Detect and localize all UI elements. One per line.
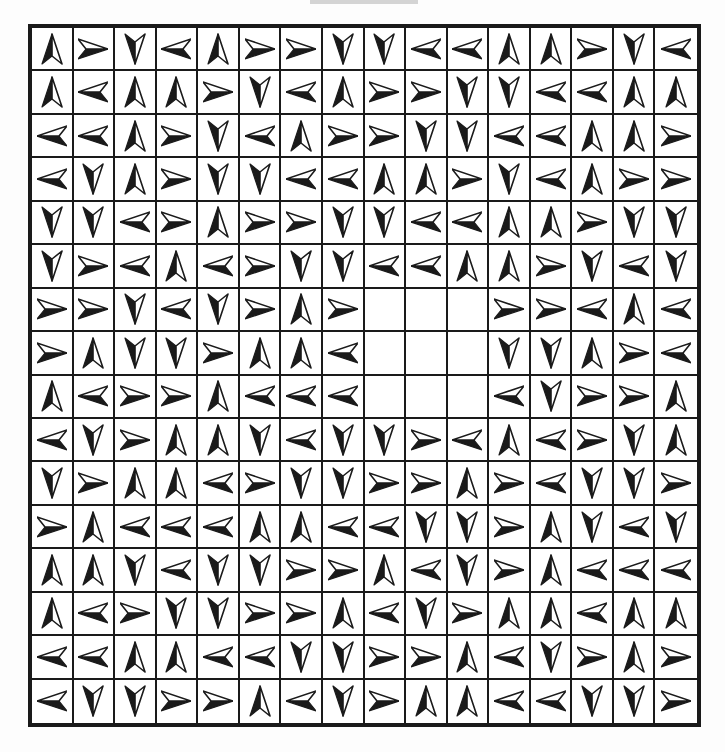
down-arrow-icon [203, 596, 233, 630]
grid-cell-r10-c5 [198, 419, 240, 462]
grid-cell-r8-c10 [406, 332, 448, 375]
right-arrow-icon [37, 292, 67, 326]
grid-cell-r4-c2 [74, 158, 116, 201]
right-arrow-icon [161, 205, 191, 239]
grid-cell-r3-c16 [655, 115, 697, 158]
grid-cell-r12-c14 [572, 506, 614, 549]
grid-cell-r10-c7 [281, 419, 323, 462]
left-arrow-icon [369, 596, 399, 630]
grid-cell-r13-c15 [614, 549, 656, 592]
down-arrow-icon [328, 205, 358, 239]
grid-cell-r1-c10 [406, 28, 448, 71]
grid-cell-r2-c1 [32, 71, 74, 114]
left-arrow-icon [369, 249, 399, 283]
left-arrow-icon [286, 684, 316, 718]
down-arrow-icon [577, 249, 607, 283]
grid-cell-r5-c3 [115, 202, 157, 245]
grid-cell-r2-c16 [655, 71, 697, 114]
up-arrow-icon [78, 336, 108, 370]
grid-cell-r11-c13 [531, 462, 573, 505]
up-arrow-icon [661, 75, 691, 109]
grid-cell-r2-c10 [406, 71, 448, 114]
grid-cell-r11-c3 [115, 462, 157, 505]
up-arrow-icon [369, 162, 399, 196]
up-arrow-icon [619, 292, 649, 326]
left-arrow-icon [203, 249, 233, 283]
right-arrow-icon [619, 379, 649, 413]
right-arrow-icon [78, 466, 108, 500]
grid-cell-r7-c9 [365, 289, 407, 332]
grid-cell-r6-c15 [614, 245, 656, 288]
grid-cell-r12-c3 [115, 506, 157, 549]
left-arrow-icon [411, 249, 441, 283]
grid-cell-r1-c14 [572, 28, 614, 71]
grid-cell-r1-c6 [240, 28, 282, 71]
grid-cell-r14-c12 [489, 593, 531, 636]
left-arrow-icon [161, 32, 191, 66]
grid-cell-r7-c1 [32, 289, 74, 332]
down-arrow-icon [452, 75, 482, 109]
right-arrow-icon [452, 162, 482, 196]
right-arrow-icon [536, 292, 566, 326]
grid-cell-r6-c11 [448, 245, 490, 288]
down-arrow-icon [369, 423, 399, 457]
right-arrow-icon [411, 75, 441, 109]
up-arrow-icon [536, 596, 566, 630]
up-arrow-icon [286, 510, 316, 544]
right-arrow-icon [245, 292, 275, 326]
grid-cell-r16-c8 [323, 680, 365, 723]
grid-cell-r10-c1 [32, 419, 74, 462]
grid-cell-r10-c9 [365, 419, 407, 462]
grid-cell-r1-c7 [281, 28, 323, 71]
down-arrow-icon [203, 162, 233, 196]
grid-cell-r13-c4 [157, 549, 199, 592]
up-arrow-icon [245, 684, 275, 718]
up-arrow-icon [161, 249, 191, 283]
left-arrow-icon [286, 379, 316, 413]
grid-cell-r9-c9 [365, 376, 407, 419]
grid-cell-r11-c10 [406, 462, 448, 505]
down-arrow-icon [452, 510, 482, 544]
right-arrow-icon [245, 596, 275, 630]
right-arrow-icon [286, 32, 316, 66]
grid-cell-r8-c2 [74, 332, 116, 375]
grid-cell-r16-c9 [365, 680, 407, 723]
left-arrow-icon [411, 32, 441, 66]
grid-cell-r1-c3 [115, 28, 157, 71]
down-arrow-icon [328, 466, 358, 500]
grid-cell-r12-c8 [323, 506, 365, 549]
right-arrow-icon [369, 684, 399, 718]
up-arrow-icon [203, 423, 233, 457]
grid-cell-r1-c1 [32, 28, 74, 71]
grid-cell-r14-c10 [406, 593, 448, 636]
left-arrow-icon [411, 205, 441, 239]
down-arrow-icon [494, 75, 524, 109]
grid-cell-r10-c14 [572, 419, 614, 462]
left-arrow-icon [328, 510, 358, 544]
up-arrow-icon [245, 336, 275, 370]
left-arrow-icon [494, 119, 524, 153]
grid-cell-r9-c10 [406, 376, 448, 419]
up-arrow-icon [37, 596, 67, 630]
down-arrow-icon [536, 336, 566, 370]
left-arrow-icon [37, 423, 67, 457]
grid-cell-r8-c4 [157, 332, 199, 375]
grid-cell-r6-c4 [157, 245, 199, 288]
grid-cell-r14-c2 [74, 593, 116, 636]
grid-cell-r4-c10 [406, 158, 448, 201]
up-arrow-icon [286, 336, 316, 370]
grid-cell-r2-c15 [614, 71, 656, 114]
down-arrow-icon [245, 423, 275, 457]
left-arrow-icon [536, 466, 566, 500]
grid-cell-r4-c14 [572, 158, 614, 201]
grid-cell-r11-c5 [198, 462, 240, 505]
grid-cell-r5-c9 [365, 202, 407, 245]
left-arrow-icon [78, 379, 108, 413]
grid-cell-r11-c14 [572, 462, 614, 505]
grid-cell-r9-c2 [74, 376, 116, 419]
down-arrow-icon [328, 423, 358, 457]
left-arrow-icon [203, 466, 233, 500]
right-arrow-icon [120, 379, 150, 413]
up-arrow-icon [494, 32, 524, 66]
grid-cell-r6-c10 [406, 245, 448, 288]
